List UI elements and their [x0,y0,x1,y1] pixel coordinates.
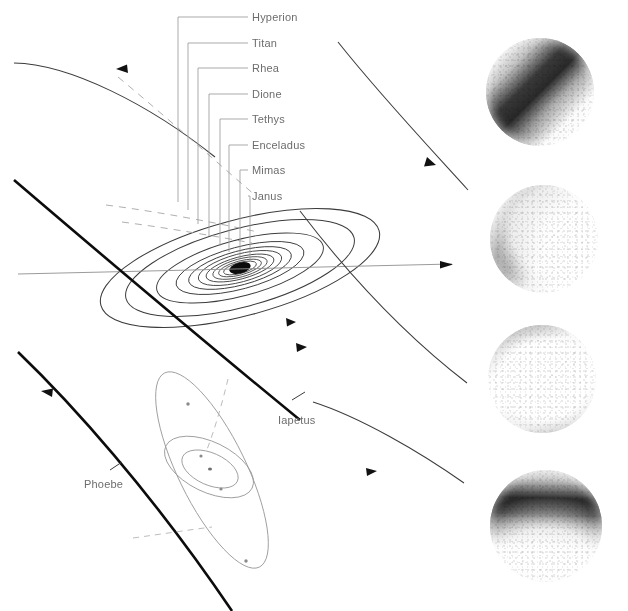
label-tethys: Tethys [252,113,285,125]
inset-iapetus-orbit [155,423,263,510]
iapetus-arc-right-tail [313,402,464,483]
label-hyperion: Hyperion [252,11,298,23]
iapetus-arrow-upper-right [424,157,436,167]
label-phoebe: Phoebe [84,478,123,490]
label-enceladus: Enceladus [252,139,305,151]
inset-moon-dot-b [219,487,222,490]
sphere-limb [488,325,596,433]
leader-dione [209,94,248,236]
leader-rhea [198,68,248,224]
leader-hyperion [178,17,248,202]
sphere-image-3 [488,325,596,433]
sphere-limb [490,185,598,293]
label-iapetus: Iapetus [278,414,315,426]
phoebe-direction-markers [41,389,53,398]
sphere-image-2 [490,185,598,293]
iapetus-arc-upper-right [338,42,468,190]
label-dione: Dione [252,88,282,100]
dash-titan-hidden [106,205,258,232]
equatorial-line-arrow [440,261,453,269]
dash-rhea-hidden [122,222,252,243]
iapetus-arc-lower-right [300,211,467,383]
arrow-marker-outer-bottom [296,343,307,352]
label-mimas: Mimas [252,164,285,176]
leader-phoebe [110,462,122,470]
leader-enceladus [229,145,248,252]
inset-moon-dot-a [199,454,202,457]
inset-leader-dash-top [206,379,228,452]
arrow-marker-inner-bottom [286,318,296,327]
label-titan: Titan [252,37,277,49]
iapetus-arrow-upper-left [116,65,128,74]
phoebe-orbit-group [14,180,300,611]
sphere-limb [490,470,602,582]
label-rhea: Rhea [252,62,279,74]
saturn-orbit-figure: Hyperion Titan Rhea Dione Tethys Encelad… [0,0,628,611]
inset-saturn [208,467,212,470]
label-janus: Janus [252,190,282,202]
iapetus-arrow-lower-right [366,468,377,476]
iapetus-arc-upper-left [14,63,215,157]
sphere-image-4 [490,470,602,582]
sphere-image-1 [486,38,594,146]
phoebe-arrow-lower [41,389,53,398]
orbit-direction-markers [286,318,307,352]
outer-label-leaders [110,392,305,470]
sphere-limb [486,38,594,146]
inset-moon-dot-lower [244,559,247,562]
leader-iapetus [292,392,305,400]
inset-moon-dot-upper [186,402,189,405]
hidden-orbit-dashes [106,77,258,243]
